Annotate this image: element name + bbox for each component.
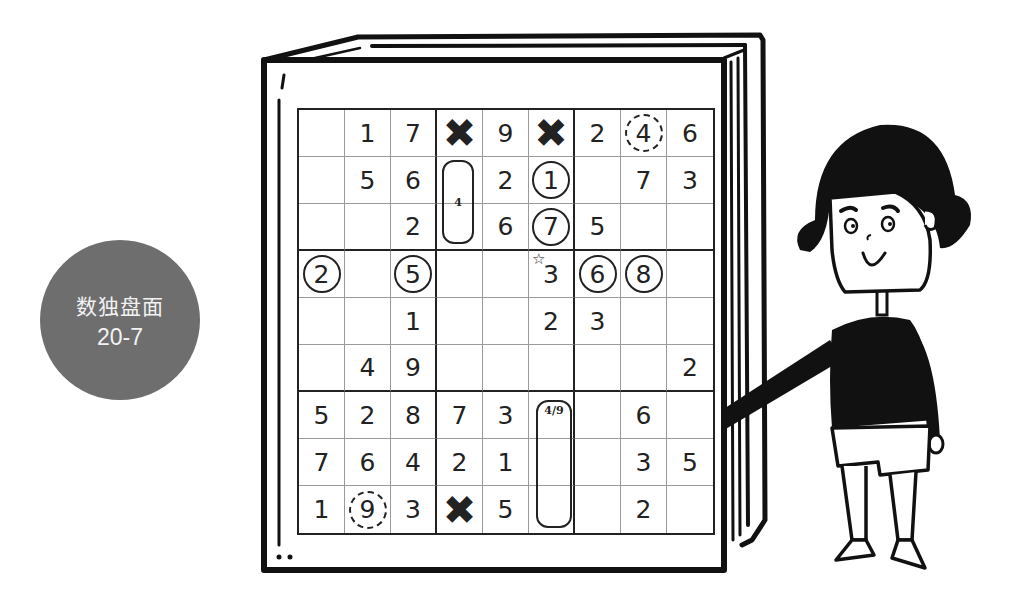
cell-digit: 5: [314, 401, 330, 430]
grid-cell-r3c6: 7: [529, 204, 575, 251]
cell-digit: 7: [452, 401, 468, 430]
grid-cell-r9c1: 1: [299, 486, 345, 533]
circled-digit: 5: [394, 255, 432, 293]
grid-cell-r5c8: [621, 298, 667, 345]
grid-cell-r1c3: 7: [391, 110, 437, 157]
dashed-circled-digit: 9: [349, 491, 387, 529]
grid-cell-r9c7: [575, 486, 621, 533]
grid-cell-r2c5: 2: [483, 157, 529, 204]
cell-digit: 5: [682, 448, 698, 477]
cell-digit: 2: [636, 495, 652, 524]
cell-digit: 3: [498, 401, 514, 430]
grid-cell-r6c7: [575, 345, 621, 392]
grid-cell-r5c3: 1: [391, 298, 437, 345]
circled-digit: 2: [303, 255, 341, 293]
cell-digit: 3: [590, 307, 606, 336]
cell-digit: 3: [682, 166, 698, 195]
grid-cell-r3c7: 5: [575, 204, 621, 251]
grid-cell-r7c4: 7: [437, 392, 483, 439]
grid-cell-r1c9: 6: [667, 110, 713, 157]
grid-cell-r2c1: [299, 157, 345, 204]
cell-digit: 6: [682, 119, 698, 148]
dashed-circled-digit: 4: [625, 114, 663, 152]
grid-cell-r2c7: [575, 157, 621, 204]
cell-digit: 9: [405, 353, 421, 382]
cell-digit: 4: [360, 353, 376, 382]
cell-digit: 2: [498, 166, 514, 195]
cell-digit: 2: [590, 119, 606, 148]
grid-cell-r4c8: 8: [621, 251, 667, 298]
grid-cell-r7c9: [667, 392, 713, 439]
grid-cell-r5c4: [437, 298, 483, 345]
grid-cell-r5c6: 2: [529, 298, 575, 345]
grid-cell-r7c1: 5: [299, 392, 345, 439]
grid-cell-r7c7: [575, 392, 621, 439]
cell-digit: 2: [405, 212, 421, 241]
candidate-pair-marker: 4: [442, 160, 474, 244]
circled-digit: 1: [532, 161, 570, 199]
grid-cell-r8c9: 5: [667, 439, 713, 486]
eliminated-x-icon: ✖: [534, 113, 568, 153]
grid-cell-r4c1: 2: [299, 251, 345, 298]
grid-cell-r7c3: 8: [391, 392, 437, 439]
cell-digit: 5: [498, 495, 514, 524]
grid-cell-r1c6: ✖: [529, 110, 575, 157]
cell-digit: 8: [405, 401, 421, 430]
grid-cell-r1c5: 9: [483, 110, 529, 157]
grid-cell-r6c5: [483, 345, 529, 392]
cell-digit: 4: [405, 448, 421, 477]
grid-cell-r6c9: 2: [667, 345, 713, 392]
grid-cell-r9c5: 5: [483, 486, 529, 533]
grid-cell-r4c7: 6: [575, 251, 621, 298]
grid-cell-r4c5: [483, 251, 529, 298]
cell-digit: 6: [498, 212, 514, 241]
grid-cell-r9c8: 2: [621, 486, 667, 533]
candidate-note: 4: [454, 196, 462, 209]
grid-cell-r9c3: 3: [391, 486, 437, 533]
cell-digit: 6: [405, 166, 421, 195]
eliminated-x-icon: ✖: [443, 113, 477, 153]
cell-digit: 7: [636, 166, 652, 195]
cell-digit: 1: [360, 119, 376, 148]
cell-digit: 2: [452, 448, 468, 477]
grid-cell-r8c3: 4: [391, 439, 437, 486]
cell-digit: 5: [360, 166, 376, 195]
cell-digit: 1: [405, 307, 421, 336]
grid-cell-r3c9: [667, 204, 713, 251]
cell-digit: 1: [498, 448, 514, 477]
grid-cell-r5c1: [299, 298, 345, 345]
grid-cell-r6c3: 9: [391, 345, 437, 392]
cell-digit: 6: [636, 401, 652, 430]
grid-cell-r1c7: 2: [575, 110, 621, 157]
grid-cell-r8c2: 6: [345, 439, 391, 486]
star-icon: ☆: [532, 250, 545, 268]
candidate-triple-marker: 4/9: [536, 400, 572, 528]
grid-cell-r6c4: [437, 345, 483, 392]
grid-cell-r6c1: [299, 345, 345, 392]
cell-digit: 1: [314, 495, 330, 524]
grid-cell-r9c4: ✖: [437, 486, 483, 533]
grid-cell-r1c1: [299, 110, 345, 157]
grid-cell-r4c3: 5: [391, 251, 437, 298]
grid-cell-r4c9: [667, 251, 713, 298]
grid-cell-r4c2: [345, 251, 391, 298]
grid-cell-r5c7: 3: [575, 298, 621, 345]
grid-cell-r1c2: 1: [345, 110, 391, 157]
grid-cell-r8c8: 3: [621, 439, 667, 486]
cell-digit: 2: [682, 353, 698, 382]
grid-cell-r6c6: [529, 345, 575, 392]
cell-digit: 3: [405, 495, 421, 524]
cell-digit: 2: [543, 307, 559, 336]
grid-cell-r8c1: 7: [299, 439, 345, 486]
grid-cell-r4c4: [437, 251, 483, 298]
grid-cell-r7c5: 3: [483, 392, 529, 439]
circled-digit: 8: [625, 255, 663, 293]
grid-cell-r3c8: [621, 204, 667, 251]
grid-cell-r2c9: 3: [667, 157, 713, 204]
grid-cell-r2c8: 7: [621, 157, 667, 204]
grid-cell-r7c2: 2: [345, 392, 391, 439]
grid-cell-r3c2: [345, 204, 391, 251]
grid-cell-r7c8: 6: [621, 392, 667, 439]
candidate-note: 4/9: [544, 404, 563, 417]
grid-cell-r2c6: 1: [529, 157, 575, 204]
